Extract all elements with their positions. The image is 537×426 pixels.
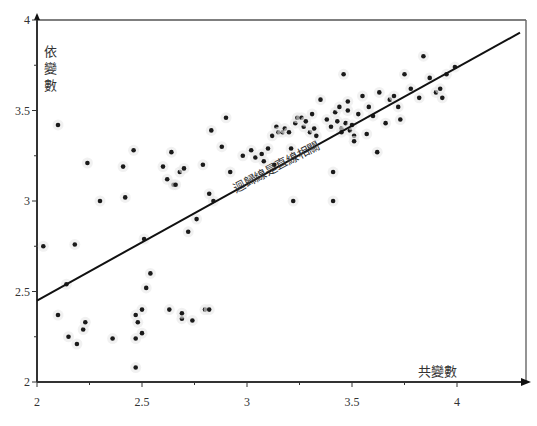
regression-annotation: 迴歸線是直線相關 bbox=[230, 137, 322, 195]
x-tick-label: 4 bbox=[454, 395, 460, 409]
data-point bbox=[133, 313, 138, 318]
data-point bbox=[136, 320, 141, 325]
data-point bbox=[66, 334, 71, 339]
y-tick-label: 3.5 bbox=[15, 104, 30, 118]
data-point bbox=[259, 152, 264, 157]
data-point bbox=[364, 132, 369, 137]
data-point bbox=[83, 320, 88, 325]
data-point bbox=[314, 134, 319, 139]
data-point bbox=[121, 164, 126, 169]
y-tick-label: 2 bbox=[24, 375, 30, 389]
data-point bbox=[209, 128, 214, 133]
data-point bbox=[73, 242, 78, 247]
data-point bbox=[262, 159, 267, 164]
data-point bbox=[266, 146, 271, 151]
y-tick-label: 3 bbox=[24, 194, 30, 208]
data-point bbox=[75, 342, 80, 347]
data-point bbox=[56, 313, 61, 318]
data-point bbox=[310, 112, 315, 117]
data-point bbox=[341, 72, 346, 77]
data-point bbox=[207, 307, 212, 312]
data-point bbox=[291, 199, 296, 204]
y-axis-title: 依變數 bbox=[44, 44, 57, 93]
data-point bbox=[440, 96, 445, 101]
data-point bbox=[346, 108, 351, 113]
data-point bbox=[383, 121, 388, 126]
data-point bbox=[169, 150, 174, 155]
scatter-chart: 22.533.5422.533.54 依變數 共變數 迴歸線是直線相關 bbox=[0, 0, 537, 426]
data-point bbox=[140, 331, 145, 336]
data-point bbox=[325, 117, 330, 122]
data-point bbox=[409, 86, 414, 91]
data-point bbox=[220, 144, 225, 149]
data-point bbox=[335, 119, 340, 124]
data-point bbox=[182, 166, 187, 171]
data-point bbox=[287, 130, 292, 135]
data-point bbox=[56, 123, 61, 128]
data-point bbox=[241, 153, 246, 158]
data-point bbox=[352, 139, 357, 144]
x-tick-label: 3 bbox=[244, 395, 250, 409]
data-point bbox=[438, 86, 443, 91]
data-point bbox=[186, 229, 191, 234]
y-tick-label: 4 bbox=[24, 13, 30, 27]
axis-ticks: 22.533.5422.533.54 bbox=[15, 13, 460, 409]
data-point bbox=[148, 271, 153, 276]
data-point bbox=[398, 117, 403, 122]
data-point bbox=[110, 336, 115, 341]
data-point bbox=[329, 124, 334, 129]
data-point bbox=[98, 199, 103, 204]
data-point bbox=[417, 96, 422, 101]
data-point bbox=[304, 119, 309, 124]
data-point bbox=[180, 311, 185, 316]
data-point bbox=[133, 336, 138, 341]
data-point bbox=[161, 164, 166, 169]
x-tick-label: 2.5 bbox=[135, 395, 150, 409]
x-tick-label: 3.5 bbox=[345, 395, 360, 409]
data-point bbox=[194, 217, 199, 222]
data-point bbox=[331, 170, 336, 175]
data-point bbox=[140, 307, 145, 312]
data-point bbox=[144, 286, 149, 291]
data-point bbox=[356, 112, 361, 117]
data-point bbox=[228, 170, 233, 175]
data-point bbox=[312, 126, 317, 131]
data-point bbox=[131, 148, 136, 153]
data-point bbox=[421, 54, 426, 59]
data-point bbox=[367, 105, 372, 110]
data-point bbox=[190, 318, 195, 323]
data-point bbox=[207, 191, 212, 196]
data-point bbox=[377, 90, 382, 95]
data-point bbox=[427, 76, 432, 81]
data-point bbox=[81, 327, 86, 332]
data-point bbox=[224, 115, 229, 120]
data-point bbox=[375, 150, 380, 155]
data-point bbox=[85, 161, 90, 166]
data-point bbox=[346, 99, 351, 104]
data-point bbox=[133, 365, 138, 370]
x-tick-label: 2 bbox=[34, 395, 40, 409]
data-point bbox=[123, 195, 128, 200]
data-point bbox=[392, 94, 397, 99]
x-axis-title: 共變數 bbox=[418, 364, 457, 379]
data-point bbox=[337, 105, 342, 110]
data-point bbox=[41, 244, 46, 249]
data-point bbox=[173, 182, 178, 187]
data-point bbox=[331, 199, 336, 204]
data-point bbox=[167, 307, 172, 312]
data-point bbox=[360, 94, 365, 99]
y-tick-label: 2.5 bbox=[15, 285, 30, 299]
data-point bbox=[396, 105, 401, 110]
data-point bbox=[402, 72, 407, 77]
data-point bbox=[318, 97, 323, 102]
data-point bbox=[249, 148, 254, 153]
data-point bbox=[201, 163, 206, 168]
data-points bbox=[38, 51, 461, 373]
data-point bbox=[165, 177, 170, 182]
